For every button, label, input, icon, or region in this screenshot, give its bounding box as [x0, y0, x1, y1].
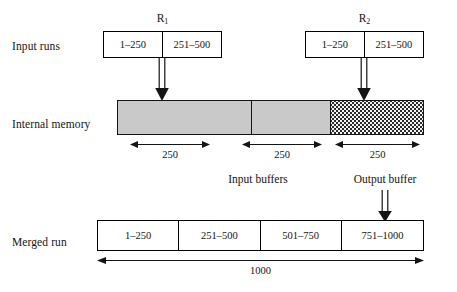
dimension-line-input-buffer-2: [242, 140, 322, 149]
internal-memory-bar: [117, 100, 424, 135]
caption-output-buffer: Output buffer: [333, 173, 437, 185]
memory-segment-input-buffer-1: [118, 101, 252, 134]
run-caption-r2-index: 2: [366, 17, 370, 26]
merged-run-cell-1: 1–250: [98, 221, 179, 250]
row-label-input-runs: Input runs: [12, 40, 60, 52]
caption-input-buffers: Input buffers: [203, 173, 313, 185]
merged-run-cell-3: 501–750: [261, 221, 342, 250]
row-label-internal-memory: Internal memory: [12, 118, 90, 130]
input-run-box-r1: 1–250 251–500: [103, 31, 222, 58]
flow-arrow-output-buffer-to-merged-run: [377, 190, 393, 223]
dimension-line-output-buffer: [335, 140, 420, 149]
dimension-line-merged-run-total: [97, 256, 424, 265]
dimension-label-merged-run-total: 1000: [97, 265, 424, 276]
run-caption-r2: R2: [305, 12, 424, 24]
input-run-box-r2: 1–250 251–500: [305, 31, 424, 58]
merged-run-cell-2: 251–500: [179, 221, 260, 250]
merged-run-cell-4: 751–1000: [342, 221, 423, 250]
flow-arrow-r1-to-memory: [154, 57, 170, 102]
dimension-label-input-buffer-1: 250: [130, 149, 210, 160]
merged-run-box: 1–250 251–500 501–750 751–1000: [97, 220, 424, 251]
row-label-merged-run: Merged run: [12, 236, 67, 248]
dimension-label-output-buffer: 250: [335, 149, 420, 160]
input-run-r2-cell-1: 1–250: [306, 32, 365, 57]
flow-arrow-r2-to-memory: [356, 57, 372, 102]
dimension-line-input-buffer-1: [130, 140, 210, 149]
run-caption-r1: R1: [103, 12, 222, 24]
input-run-r2-cell-2: 251–500: [365, 32, 424, 57]
run-caption-r1-index: 1: [164, 17, 168, 26]
merge-sort-buffer-diagram: Input runs R1 1–250 251–500 R2 1–250 251…: [0, 0, 457, 292]
input-run-r1-cell-1: 1–250: [104, 32, 163, 57]
memory-segment-input-buffer-2: [252, 101, 331, 134]
input-run-r1-cell-2: 251–500: [163, 32, 222, 57]
memory-segment-output-buffer: [331, 101, 423, 134]
dimension-label-input-buffer-2: 250: [242, 149, 322, 160]
